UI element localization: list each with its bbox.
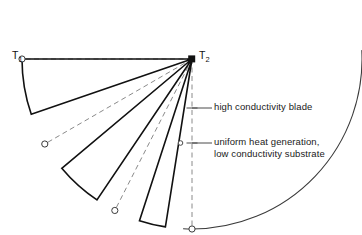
diagram-root: T1 T2 high conductivity blade uniform he… (0, 0, 362, 235)
t2-subscript: 2 (206, 55, 210, 64)
blade-3 (139, 59, 192, 227)
blade-1 (22, 59, 192, 114)
annotation-substrate-line2: low conductivity substrate (214, 148, 325, 160)
annotation-blade: high conductivity blade (214, 101, 312, 113)
temperature-label-t1: T1 (12, 50, 23, 66)
annotation-substrate: uniform heat generation, low conductivit… (214, 136, 325, 159)
t1-subscript: 1 (19, 55, 23, 64)
annotation-substrate-line1: uniform heat generation, (214, 136, 325, 148)
arc-marker-117 (112, 207, 118, 213)
temperature-label-t2: T2 (199, 50, 210, 66)
substrate-point-marker (178, 141, 183, 146)
arc-marker-150 (42, 141, 48, 147)
arc-marker-90 (189, 226, 195, 232)
apex-marker-t2 (188, 55, 195, 62)
diagram-canvas (0, 0, 362, 235)
substrate-leader-group (178, 141, 212, 146)
